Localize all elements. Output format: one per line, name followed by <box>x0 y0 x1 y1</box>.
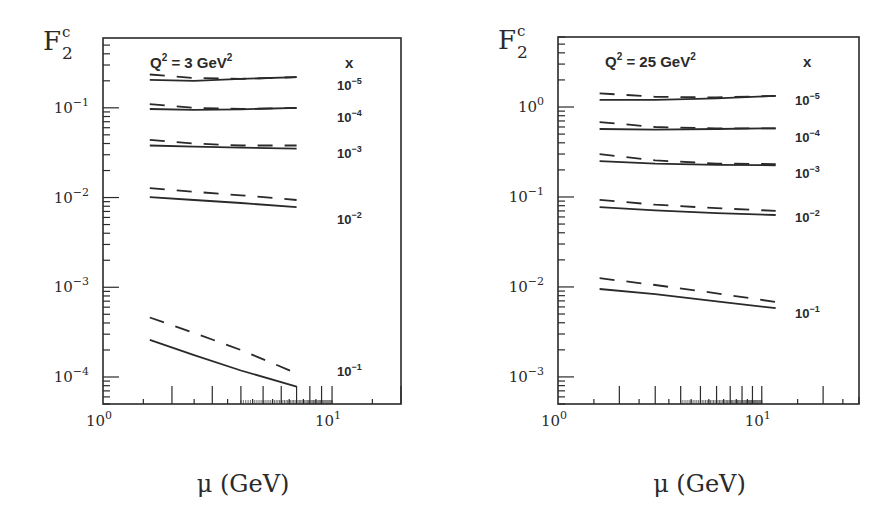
solid-curve <box>150 108 297 110</box>
y-tick-label: 10−2 <box>54 186 89 207</box>
y-axis-ticks <box>103 45 119 404</box>
y-tick-label: 10−3 <box>509 365 544 386</box>
dashed-curve <box>600 122 776 128</box>
x-value-label: 10−2 <box>337 210 362 227</box>
x-value-label: 10−5 <box>337 76 362 93</box>
legend-header: x <box>345 54 354 71</box>
y-axis-label: F2c <box>498 22 528 62</box>
plot-frame <box>103 38 401 404</box>
x-axis-label: μ (GeV) <box>197 470 290 498</box>
y-tick-label: 10−2 <box>509 275 544 296</box>
panel-title: Q2 = 25 GeV2 <box>605 51 696 70</box>
solid-curve <box>600 289 776 308</box>
x-value-label: 10−3 <box>795 164 820 181</box>
figure: 10−110−210−310−410010110−510−410−310−210… <box>0 0 891 526</box>
x-value-label: 10−5 <box>795 91 820 108</box>
y-axis-label: F2c <box>43 23 73 63</box>
x-value-label: 10−2 <box>795 208 820 225</box>
solid-curve <box>150 146 297 149</box>
x-tick-label: 101 <box>745 409 771 430</box>
x-tick-label: 100 <box>86 409 112 430</box>
x-value-label: 10−4 <box>337 108 362 125</box>
panel-q2-25: 10010−110−210−310010110−510−410−310−210−… <box>498 22 859 498</box>
dashed-curve <box>600 93 776 97</box>
x-value-label: 10−4 <box>795 128 820 145</box>
y-tick-label: 10−1 <box>509 185 544 206</box>
x-value-label: 10−1 <box>337 362 362 379</box>
solid-curve <box>150 340 297 387</box>
x-axis-ticks <box>143 386 401 404</box>
y-tick-label: 10−1 <box>54 96 89 117</box>
x-value-label: 10−1 <box>795 304 820 321</box>
solid-curve <box>150 197 297 207</box>
x-axis-label: μ (GeV) <box>653 470 746 498</box>
y-tick-label: 10−3 <box>54 275 89 296</box>
dashed-curve <box>150 140 297 146</box>
panel-title: Q2 = 3 GeV2 <box>150 52 233 71</box>
solid-curve <box>600 207 776 215</box>
y-axis-ticks <box>558 37 574 404</box>
y-tick-label: 100 <box>518 95 544 116</box>
legend-header: x <box>803 53 812 70</box>
panel-q2-3: 10−110−210−310−410010110−510−410−310−210… <box>43 23 401 498</box>
y-tick-label: 10−4 <box>54 365 89 386</box>
x-tick-label: 100 <box>541 409 567 430</box>
x-axis-ticks <box>594 386 859 404</box>
x-tick-label: 101 <box>315 409 341 430</box>
solid-curve <box>150 77 297 81</box>
x-value-label: 10−3 <box>337 144 362 161</box>
